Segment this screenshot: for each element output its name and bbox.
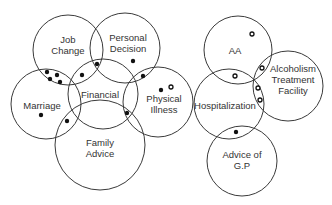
label-physical-illness: Physical — [146, 93, 181, 104]
filled-dot-marker — [141, 74, 145, 78]
filled-dot-marker — [58, 80, 62, 84]
label-alcoholism-treatment-facility: Alcoholism — [270, 63, 316, 74]
filled-dot-marker — [125, 111, 129, 115]
hollow-dot-marker — [169, 85, 173, 89]
label-job-change: Change — [51, 45, 84, 56]
hollow-dot-marker — [233, 74, 237, 78]
filled-dot-marker — [45, 70, 49, 74]
right-venn-diagram: AAAlcoholismTreatmentFacilityHospitaliza… — [194, 16, 323, 196]
label-marriage: Marriage — [23, 100, 61, 111]
label-financial: Financial — [81, 89, 119, 100]
hollow-dot-marker — [258, 98, 262, 102]
filled-dot-marker — [55, 73, 59, 77]
label-aa: AA — [229, 45, 242, 56]
filled-dot-marker — [48, 77, 52, 81]
hollow-dot-marker — [250, 32, 254, 36]
filled-dot-marker — [95, 62, 99, 66]
label-personal-decision: Personal — [109, 32, 147, 43]
hollow-dot-marker — [256, 86, 260, 90]
filled-dot-marker — [65, 119, 69, 123]
label-family-advice: Advice — [86, 148, 115, 159]
filled-dot-marker — [234, 130, 238, 134]
filled-dot-marker — [131, 59, 135, 63]
label-physical-illness: Illness — [151, 104, 178, 115]
left-venn-diagram: JobChangePersonalDecisionMarriageFinanci… — [11, 13, 193, 190]
hollow-dot-marker — [260, 66, 264, 70]
filled-dot-marker — [80, 73, 84, 77]
venn-diagram-canvas: JobChangePersonalDecisionMarriageFinanci… — [0, 0, 332, 205]
filled-dot-marker — [159, 88, 163, 92]
label-alcoholism-treatment-facility: Treatment — [272, 74, 315, 85]
label-advice-of-gp: G.P — [234, 160, 250, 171]
label-family-advice: Family — [86, 137, 114, 148]
label-job-change: Job — [60, 34, 75, 45]
label-alcoholism-treatment-facility: Facility — [278, 85, 308, 96]
label-advice-of-gp: Advice of — [222, 149, 261, 160]
label-personal-decision: Decision — [110, 43, 146, 54]
label-hospitalization: Hospitalization — [194, 100, 256, 111]
filled-dot-marker — [39, 113, 43, 117]
